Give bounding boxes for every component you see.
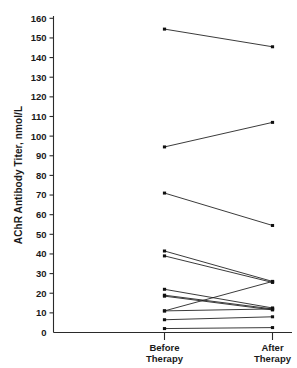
- y-axis-ticks-group: 0102030405060708090100110120130140150160: [31, 13, 54, 338]
- data-point-marker-after: [271, 45, 274, 48]
- x-axis-category-label-line2: Therapy: [254, 353, 292, 364]
- y-axis-tick-label: 110: [31, 111, 46, 122]
- y-axis-title-group: AChR Antibody Titer, nmol/L: [13, 106, 24, 244]
- data-series-layer: [163, 28, 274, 330]
- data-point-marker-before: [163, 250, 166, 253]
- series-connector-line: [165, 328, 273, 329]
- data-point-marker-before: [163, 288, 166, 291]
- y-axis-tick-label: 40: [36, 248, 47, 259]
- data-point-marker-before: [163, 318, 166, 321]
- y-axis-tick-label: 80: [36, 170, 47, 181]
- series-patient-3: [163, 192, 274, 227]
- y-axis-tick-label: 130: [31, 72, 47, 83]
- series-connector-line: [165, 29, 273, 47]
- data-point-marker-after: [271, 326, 274, 329]
- chart-figure: AChR Antibody Titer, nmol/L 010203040506…: [0, 0, 297, 368]
- y-axis-tick-label: 120: [31, 91, 47, 102]
- y-axis-tick-label: 10: [36, 307, 47, 318]
- y-axis-tick-label: 100: [31, 131, 47, 142]
- data-point-marker-before: [163, 295, 166, 298]
- series-patient-6: [163, 288, 274, 310]
- series-connector-line: [165, 256, 273, 283]
- series-connector-line: [165, 317, 273, 320]
- acr-antibody-titer-line-chart: AChR Antibody Titer, nmol/L 010203040506…: [0, 0, 297, 368]
- series-connector-line: [165, 251, 273, 281]
- series-connector-line: [165, 193, 273, 225]
- series-patient-11: [163, 315, 274, 321]
- series-connector-line: [165, 122, 273, 147]
- x-axis-category-label-line1: After: [261, 342, 283, 353]
- data-point-marker-before: [163, 254, 166, 257]
- y-axis-tick-label: 140: [31, 52, 47, 63]
- data-point-marker-after: [271, 121, 274, 124]
- y-axis-title: AChR Antibody Titer, nmol/L: [13, 106, 24, 244]
- y-axis-tick-label: 70: [36, 189, 47, 200]
- y-axis-tick-label: 90: [36, 150, 47, 161]
- data-point-marker-before: [163, 327, 166, 330]
- y-axis-tick-label: 20: [36, 288, 47, 299]
- series-patient-5: [163, 254, 274, 284]
- series-patient-9: [163, 280, 274, 312]
- series-patient-1: [163, 28, 274, 49]
- series-patient-2: [163, 121, 274, 149]
- data-point-marker-after: [271, 315, 274, 318]
- series-patient-4: [163, 250, 274, 283]
- y-axis-tick-label: 0: [41, 327, 46, 338]
- data-point-marker-after: [271, 280, 274, 283]
- data-point-marker-before: [163, 145, 166, 148]
- x-axis-category-label-line1: Before: [149, 342, 179, 353]
- category-labels-group: BeforeTherapyAfterTherapy: [146, 342, 292, 364]
- data-point-marker-after: [271, 224, 274, 227]
- series-connector-line: [165, 309, 273, 311]
- y-axis-tick-label: 160: [31, 13, 47, 24]
- y-axis-tick-label: 150: [31, 32, 47, 43]
- y-axis-tick-label: 60: [36, 209, 47, 220]
- data-point-marker-before: [163, 192, 166, 195]
- series-patient-12: [163, 326, 274, 330]
- category-ticks-group: [165, 333, 273, 341]
- data-point-marker-after: [271, 307, 274, 310]
- x-axis-category-label-line2: Therapy: [146, 353, 184, 364]
- data-point-marker-before: [163, 309, 166, 312]
- y-axis-tick-label: 30: [36, 268, 47, 279]
- y-axis-tick-label: 50: [36, 229, 47, 240]
- data-point-marker-before: [163, 28, 166, 31]
